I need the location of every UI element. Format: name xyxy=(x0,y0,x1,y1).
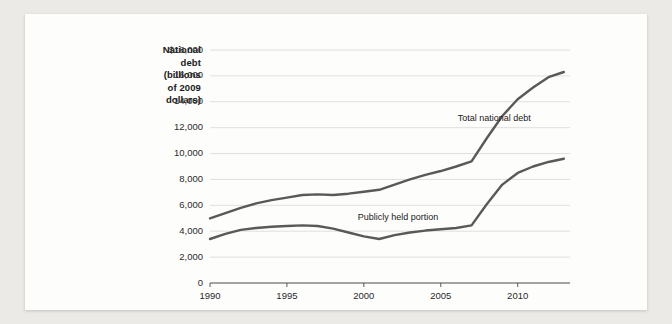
series-line-2 xyxy=(210,159,564,239)
chart-card: National debt (billions of 2009 dollars)… xyxy=(25,14,647,310)
y-tick-label: 6,000 xyxy=(145,199,203,210)
x-tick-label: 2010 xyxy=(493,290,543,301)
series-annotation-2: Publicly held portion xyxy=(358,212,439,222)
chart-figure: National debt (billions of 2009 dollars)… xyxy=(25,14,647,310)
page-background: National debt (billions of 2009 dollars)… xyxy=(0,0,672,324)
x-tick-label: 1995 xyxy=(262,290,312,301)
x-tick-label: 1990 xyxy=(185,290,235,301)
plot-svg xyxy=(25,14,647,310)
y-tick-label: $18,000 xyxy=(145,44,203,55)
y-tick-label: 4,000 xyxy=(145,225,203,236)
y-tick-label: 16,000 xyxy=(145,69,203,80)
y-tick-label: 10,000 xyxy=(145,147,203,158)
y-tick-label: 8,000 xyxy=(145,173,203,184)
x-tick-label: 2005 xyxy=(416,290,466,301)
y-tick-label: 0 xyxy=(145,277,203,288)
y-tick-label: 2,000 xyxy=(145,251,203,262)
y-tick-label: 12,000 xyxy=(145,121,203,132)
x-tick-label: 2000 xyxy=(339,290,389,301)
series-annotation-1: Total national debt xyxy=(458,113,531,123)
y-tick-label: 14,000 xyxy=(145,95,203,106)
series-line-1 xyxy=(210,72,564,218)
